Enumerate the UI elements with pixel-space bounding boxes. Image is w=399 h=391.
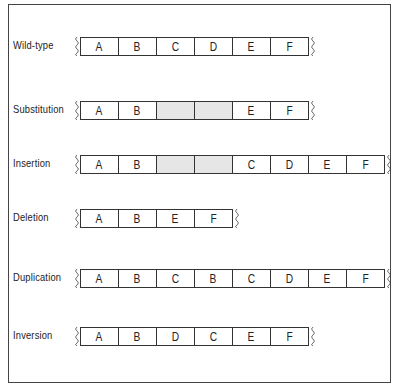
segment-label: E — [324, 272, 331, 286]
segment-label: A — [96, 40, 103, 54]
segment-label: D — [286, 158, 293, 172]
segment-label: A — [96, 104, 103, 118]
segment-label: B — [134, 330, 141, 344]
segment-label: A — [96, 272, 103, 286]
segment-label: C — [210, 330, 217, 344]
row-inversion: InversionABDCEF — [9, 327, 389, 346]
wavy-break-left-icon — [73, 209, 80, 228]
segment-label: E — [248, 40, 255, 54]
segment: C — [157, 37, 195, 56]
wavy-break-left-icon — [73, 37, 80, 56]
dna-strand: ABDCEF — [73, 327, 316, 346]
segment: B — [195, 269, 233, 288]
segment: A — [80, 155, 119, 174]
segment: A — [80, 101, 119, 120]
segment: E — [309, 269, 347, 288]
row-deletion: DeletionABEF — [9, 209, 389, 228]
segment: E — [233, 37, 271, 56]
segment-label: C — [248, 158, 255, 172]
row-insertion: InsertionABCDEF — [9, 155, 389, 174]
segment-label: E — [324, 158, 331, 172]
segment-label: E — [248, 104, 255, 118]
dna-strand: ABEF — [73, 209, 240, 228]
segment: D — [157, 327, 195, 346]
segment-label: B — [134, 272, 141, 286]
segment-label: F — [362, 272, 368, 286]
wavy-break-right-icon — [233, 209, 240, 228]
segment-label: E — [248, 330, 255, 344]
wavy-break-right-icon — [309, 37, 316, 56]
wavy-break-left-icon — [73, 269, 80, 288]
segment: A — [80, 327, 119, 346]
segment: F — [271, 101, 309, 120]
segment-label: D — [210, 40, 217, 54]
row-label: Deletion — [13, 211, 49, 223]
row-label: Wild-type — [13, 39, 54, 51]
wavy-break-left-icon — [73, 101, 80, 120]
segment: E — [309, 155, 347, 174]
segment: B — [119, 37, 157, 56]
segment: F — [195, 209, 233, 228]
segment: B — [119, 101, 157, 120]
segment: B — [119, 209, 157, 228]
dna-strand: ABCDEF — [73, 155, 392, 174]
segment: C — [157, 269, 195, 288]
dna-strand: ABEF — [73, 101, 316, 120]
segment: C — [233, 155, 271, 174]
segment-label: E — [172, 212, 179, 226]
segment: E — [157, 209, 195, 228]
wavy-break-left-icon — [73, 155, 80, 174]
segment-label: B — [210, 272, 217, 286]
segment-label: B — [134, 40, 141, 54]
segment: D — [271, 269, 309, 288]
wavy-break-left-icon — [73, 327, 80, 346]
segment-mutated — [195, 155, 233, 174]
segment: D — [195, 37, 233, 56]
row-label: Insertion — [13, 157, 50, 169]
segment-label: F — [286, 104, 292, 118]
row-label: Inversion — [13, 329, 52, 341]
dna-strand: ABCBCDEF — [73, 269, 392, 288]
segment-mutated — [195, 101, 233, 120]
wavy-break-right-icon — [309, 327, 316, 346]
segment-label: A — [96, 330, 103, 344]
segment-mutated — [157, 155, 195, 174]
dna-strand: ABCDEF — [73, 37, 316, 56]
segment-label: F — [286, 330, 292, 344]
row-duplication: DuplicationABCBCDEF — [9, 269, 389, 288]
segment-label: A — [96, 158, 103, 172]
segment-label: F — [286, 40, 292, 54]
row-label: Duplication — [13, 271, 61, 283]
segment: F — [347, 155, 385, 174]
segment: E — [233, 101, 271, 120]
segment-label: F — [210, 212, 216, 226]
row-label: Substitution — [13, 103, 64, 115]
segment-label: C — [172, 272, 179, 286]
segment: A — [80, 209, 119, 228]
segment-label: B — [134, 212, 141, 226]
segment: B — [119, 155, 157, 174]
wavy-break-right-icon — [385, 269, 392, 288]
segment: A — [80, 269, 119, 288]
segment: F — [271, 327, 309, 346]
segment-label: F — [362, 158, 368, 172]
segment-mutated — [157, 101, 195, 120]
segment: D — [271, 155, 309, 174]
wavy-break-right-icon — [385, 155, 392, 174]
diagram-frame: Wild-typeABCDEFSubstitutionABEFInsertion… — [8, 4, 391, 383]
segment-label: C — [172, 40, 179, 54]
segment: B — [119, 327, 157, 346]
segment: C — [233, 269, 271, 288]
segment-label: C — [248, 272, 255, 286]
segment-label: B — [134, 158, 141, 172]
segment-label: D — [172, 330, 179, 344]
segment: F — [347, 269, 385, 288]
segment: C — [195, 327, 233, 346]
row-wild-type: Wild-typeABCDEF — [9, 37, 389, 56]
wavy-break-right-icon — [309, 101, 316, 120]
segment: E — [233, 327, 271, 346]
segment: B — [119, 269, 157, 288]
row-substitution: SubstitutionABEF — [9, 101, 389, 120]
segment-label: B — [134, 104, 141, 118]
segment: A — [80, 37, 119, 56]
